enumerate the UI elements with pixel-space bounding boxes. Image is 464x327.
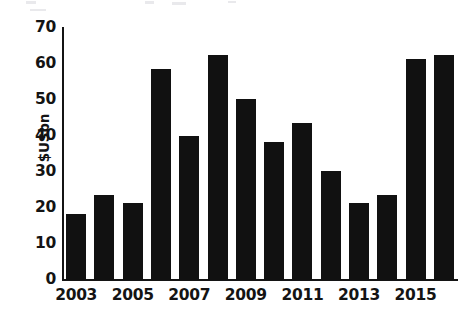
bar [236, 99, 256, 280]
bar-chart: $USbn 010203040506070 200320052007200920… [0, 0, 464, 327]
scan-artifact-speckle [0, 0, 464, 14]
y-axis-tick-label: 50 [10, 92, 56, 108]
bar [264, 142, 284, 280]
y-axis-tick-label: 70 [10, 20, 56, 36]
scan-speck [228, 1, 236, 3]
y-axis-tick-label: 10 [10, 236, 56, 252]
bar [66, 214, 86, 280]
y-axis-tick-label: 40 [10, 128, 56, 144]
bar [406, 59, 426, 280]
x-axis-tick-label: 2011 [272, 288, 332, 304]
x-axis-tick-label: 2015 [386, 288, 446, 304]
bar [94, 195, 114, 280]
bar [123, 203, 143, 280]
y-axis-tick-label: 60 [10, 56, 56, 72]
x-axis-tick-label: 2013 [329, 288, 389, 304]
bar [208, 55, 228, 280]
bar [292, 123, 312, 280]
bar [434, 55, 454, 280]
bar [377, 195, 397, 280]
y-axis-tick-label: 0 [10, 272, 56, 288]
bar [151, 69, 171, 280]
bar [349, 203, 369, 280]
bar [179, 136, 199, 280]
x-axis-tick-label: 2009 [216, 288, 276, 304]
x-axis-tick-label: 2005 [103, 288, 163, 304]
x-axis-tick-label: 2007 [159, 288, 219, 304]
bar [321, 171, 341, 280]
y-axis-tick-labels: 010203040506070 [6, 0, 56, 327]
x-axis-tick-label: 2003 [46, 288, 106, 304]
scan-speck [172, 2, 186, 5]
plot-area [62, 28, 458, 280]
x-axis-tick-labels: 2003200520072009201120132015 [62, 288, 458, 318]
y-axis-tick-label: 30 [10, 164, 56, 180]
scan-speck [145, 1, 154, 4]
y-axis-tick-label: 20 [10, 200, 56, 216]
